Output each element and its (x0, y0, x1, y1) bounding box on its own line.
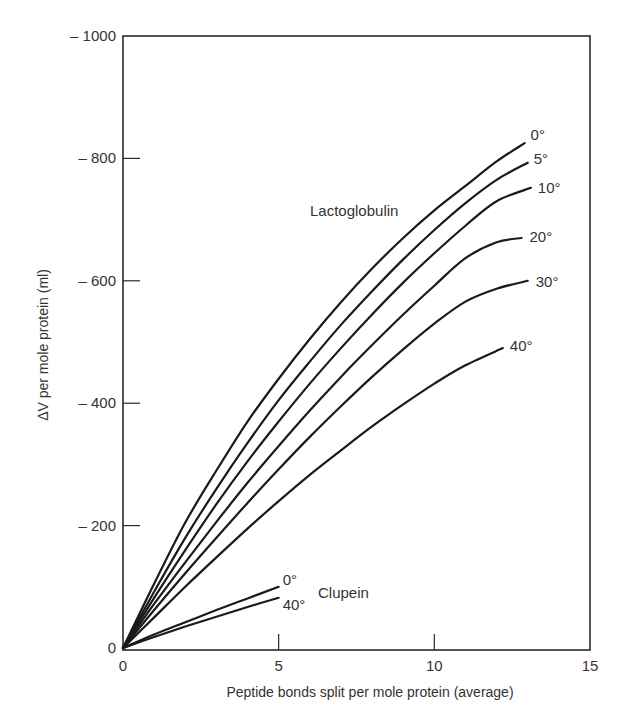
series-labels: 0°5°10°20°30°40°0°40° (283, 126, 561, 613)
annotation-clupein: Clupein (318, 584, 369, 601)
x-tick-label: 0 (119, 657, 127, 674)
y-tick-label: – 1000 (70, 27, 116, 44)
series-line-lactoglobulin-40deg (123, 348, 503, 648)
series-label-clupein-0deg: 0° (283, 571, 297, 588)
y-tick-label: – 800 (78, 149, 116, 166)
series-label-lactoglobulin-5deg: 5° (534, 150, 548, 167)
series-line-lactoglobulin-10deg (123, 188, 531, 648)
y-tick-label: – 400 (78, 394, 116, 411)
series-label-clupein-40deg: 40° (283, 596, 306, 613)
chart: 0– 200– 400– 600– 800– 1000051015 0°5°10… (0, 0, 627, 727)
series-label-lactoglobulin-30deg: 30° (536, 273, 559, 290)
y-axis-title: ΔV per mole protein (ml) (35, 269, 51, 421)
x-tick-label: 5 (274, 657, 282, 674)
y-tick-label: – 600 (78, 272, 116, 289)
y-tick-label: 0 (108, 639, 116, 656)
y-tick-label: – 200 (78, 517, 116, 534)
series-label-lactoglobulin-0deg: 0° (531, 126, 545, 143)
series-label-lactoglobulin-20deg: 20° (530, 228, 553, 245)
annotation-lactoglobulin: Lactoglobulin (310, 202, 398, 219)
series-label-lactoglobulin-10deg: 10° (538, 179, 561, 196)
x-axis-title: Peptide bonds split per mole protein (av… (226, 684, 513, 700)
x-tick-label: 10 (426, 657, 443, 674)
x-tick-label: 15 (582, 657, 599, 674)
series-label-lactoglobulin-40deg: 40° (510, 337, 533, 354)
annotations: LactoglobulinClupein (310, 202, 398, 601)
